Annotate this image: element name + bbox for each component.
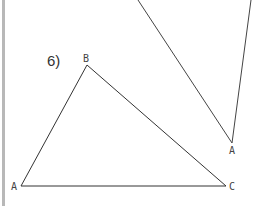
partial-triangle: A <box>138 0 251 156</box>
partial-vertex-a-label: A <box>229 145 235 156</box>
vertex-a-label: A <box>11 181 17 192</box>
problem-number: 6) <box>47 52 60 69</box>
triangle-abc: B A C <box>11 53 235 192</box>
vertex-c-label: C <box>229 181 235 192</box>
geometry-figure: A 6) B A C <box>0 0 270 206</box>
vertex-b-label: B <box>83 53 89 64</box>
